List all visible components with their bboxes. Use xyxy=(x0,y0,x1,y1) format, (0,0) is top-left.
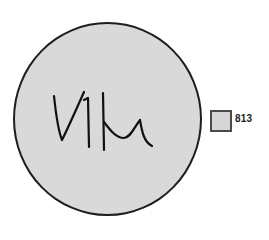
swatch-label: 813 xyxy=(235,113,252,124)
gray-disc xyxy=(13,22,202,216)
color-swatch xyxy=(210,110,232,132)
